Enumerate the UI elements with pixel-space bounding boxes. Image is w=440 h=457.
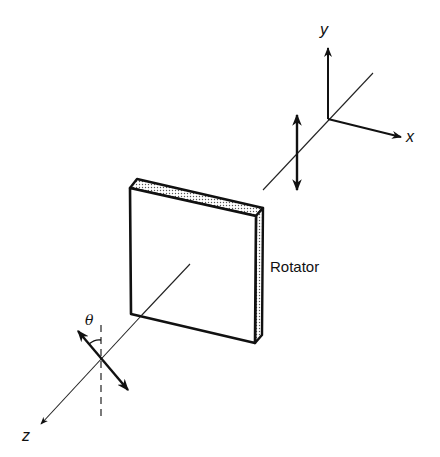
coordinate-axes [328,48,401,137]
theta-label: θ [85,313,93,327]
theta-angle-arc [89,340,101,344]
rotator-plate [130,179,263,343]
output-polarization-arrow [78,331,128,390]
x-axis-label: x [406,129,414,145]
x-axis-arrow [328,119,401,137]
rotator-label: Rotator [270,259,319,274]
diagram-canvas: y x z Rotator θ [0,0,440,457]
diagram-svg [0,0,440,457]
z-axis-label: z [22,428,30,444]
y-axis-label: y [320,22,328,38]
